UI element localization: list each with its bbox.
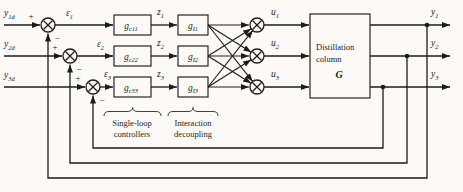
plus-sign-1: +	[28, 11, 33, 21]
brace-controllers	[104, 108, 161, 117]
error-label-2: ε2	[97, 39, 105, 51]
error-label-1: ε1	[66, 8, 73, 20]
minus-sign-3: −	[99, 95, 104, 105]
decoupler-cross-line-1-2	[208, 25, 251, 52]
z-label-3: z3	[156, 69, 165, 81]
z-label-1: z1	[156, 7, 164, 19]
plant-name-line1: Distillation	[316, 42, 355, 52]
plus-sign-2: +	[52, 42, 57, 52]
u-label-3: u3	[271, 69, 280, 81]
block-diagram-figure: y1d + − ε1 gc11 z1 gI1 u1 y1 y2d + − ε2 …	[0, 0, 463, 192]
diagram-canvas: y1d + − ε1 gc11 z1 gI1 u1 y1 y2d + − ε2 …	[0, 0, 463, 192]
brace-decoupling	[168, 108, 218, 117]
z-label-2: z2	[156, 38, 165, 50]
caption-decoupling-line2: decoupling	[174, 129, 213, 139]
caption-controllers-line2: controllers	[114, 129, 150, 139]
u-label-2: u2	[271, 38, 280, 50]
caption-controllers-line1: Single-loop	[112, 118, 152, 128]
error-label-3: ε3	[104, 69, 112, 81]
output-label-2: y2	[430, 38, 439, 50]
caption-decoupling-line1: Interaction	[175, 118, 213, 128]
plant-name-line2: column	[316, 54, 342, 64]
setpoint-label-2: y2d	[3, 39, 15, 51]
output-label-1: y1	[430, 7, 438, 19]
decoupler-cross-line-3-2	[208, 60, 251, 87]
plus-sign-3: +	[75, 73, 80, 83]
output-label-3: y3	[430, 69, 439, 81]
setpoint-label-1: y1d	[3, 8, 15, 20]
setpoint-label-3: y3d	[3, 70, 15, 82]
u-label-1: u1	[271, 7, 279, 19]
plant-symbol: G	[335, 69, 343, 80]
